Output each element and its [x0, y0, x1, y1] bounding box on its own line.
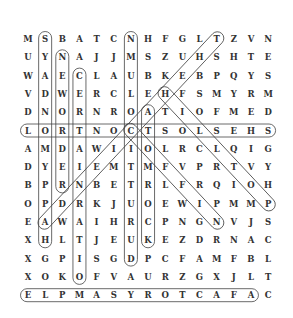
grid-letter[interactable]: P: [54, 250, 71, 268]
grid-letter[interactable]: D: [20, 103, 37, 121]
grid-letter[interactable]: C: [105, 30, 122, 48]
grid-letter[interactable]: Y: [242, 67, 259, 85]
grid-letter[interactable]: P: [191, 158, 208, 176]
grid-letter[interactable]: M: [122, 48, 139, 66]
grid-letter[interactable]: S: [260, 213, 277, 231]
grid-letter[interactable]: P: [37, 195, 54, 213]
grid-letter[interactable]: U: [20, 48, 37, 66]
grid-letter[interactable]: Z: [174, 231, 191, 249]
grid-letter[interactable]: E: [71, 85, 88, 103]
grid-letter[interactable]: A: [242, 286, 259, 304]
grid-letter[interactable]: E: [225, 122, 242, 140]
grid-letter[interactable]: P: [54, 286, 71, 304]
grid-letter[interactable]: I: [88, 213, 105, 231]
grid-letter[interactable]: T: [242, 48, 259, 66]
grid-letter[interactable]: E: [20, 213, 37, 231]
grid-letter[interactable]: P: [208, 67, 225, 85]
grid-letter[interactable]: A: [191, 250, 208, 268]
grid-letter[interactable]: L: [191, 122, 208, 140]
grid-letter[interactable]: K: [157, 67, 174, 85]
grid-letter[interactable]: Z: [157, 48, 174, 66]
grid-letter[interactable]: H: [105, 213, 122, 231]
grid-letter[interactable]: M: [140, 158, 157, 176]
grid-letter[interactable]: C: [140, 213, 157, 231]
grid-letter[interactable]: L: [191, 30, 208, 48]
grid-letter[interactable]: T: [71, 231, 88, 249]
grid-letter[interactable]: R: [140, 286, 157, 304]
grid-letter[interactable]: O: [140, 140, 157, 158]
grid-letter[interactable]: C: [260, 231, 277, 249]
grid-letter[interactable]: Z: [174, 268, 191, 286]
grid-letter[interactable]: J: [242, 213, 259, 231]
grid-letter[interactable]: E: [54, 67, 71, 85]
grid-letter[interactable]: M: [37, 140, 54, 158]
grid-letter[interactable]: Q: [225, 67, 242, 85]
grid-letter[interactable]: F: [225, 250, 242, 268]
grid-letter[interactable]: F: [208, 103, 225, 121]
grid-letter[interactable]: X: [20, 250, 37, 268]
grid-letter[interactable]: H: [191, 48, 208, 66]
grid-letter[interactable]: Y: [122, 286, 139, 304]
grid-letter[interactable]: S: [37, 30, 54, 48]
grid-letter[interactable]: J: [105, 48, 122, 66]
grid-letter[interactable]: C: [260, 286, 277, 304]
grid-letter[interactable]: V: [225, 213, 242, 231]
grid-letter[interactable]: X: [208, 268, 225, 286]
grid-letter[interactable]: V: [20, 85, 37, 103]
grid-letter[interactable]: T: [157, 103, 174, 121]
grid-letter[interactable]: N: [122, 30, 139, 48]
grid-letter[interactable]: O: [37, 268, 54, 286]
grid-letter[interactable]: R: [242, 85, 259, 103]
grid-letter[interactable]: R: [174, 140, 191, 158]
grid-letter[interactable]: M: [208, 250, 225, 268]
grid-letter[interactable]: I: [191, 195, 208, 213]
grid-letter[interactable]: O: [174, 122, 191, 140]
grid-letter[interactable]: M: [105, 158, 122, 176]
grid-letter[interactable]: T: [122, 176, 139, 194]
grid-letter[interactable]: I: [71, 250, 88, 268]
grid-letter[interactable]: S: [260, 67, 277, 85]
grid-letter[interactable]: K: [54, 268, 71, 286]
grid-letter[interactable]: S: [105, 286, 122, 304]
grid-letter[interactable]: L: [157, 140, 174, 158]
grid-letter[interactable]: C: [191, 140, 208, 158]
grid-letter[interactable]: T: [208, 30, 225, 48]
grid-letter[interactable]: H: [225, 48, 242, 66]
grid-letter[interactable]: B: [54, 30, 71, 48]
grid-letter[interactable]: S: [208, 122, 225, 140]
grid-letter[interactable]: C: [191, 286, 208, 304]
grid-letter[interactable]: S: [157, 122, 174, 140]
grid-letter[interactable]: E: [20, 286, 37, 304]
grid-letter[interactable]: N: [174, 213, 191, 231]
grid-letter[interactable]: N: [88, 122, 105, 140]
grid-letter[interactable]: F: [174, 176, 191, 194]
grid-letter[interactable]: O: [105, 122, 122, 140]
grid-letter[interactable]: K: [88, 195, 105, 213]
grid-letter[interactable]: L: [242, 268, 259, 286]
grid-letter[interactable]: I: [105, 140, 122, 158]
grid-letter[interactable]: I: [225, 176, 242, 194]
grid-letter[interactable]: U: [122, 195, 139, 213]
grid-letter[interactable]: W: [174, 195, 191, 213]
grid-letter[interactable]: D: [54, 195, 71, 213]
grid-letter[interactable]: D: [122, 250, 139, 268]
grid-letter[interactable]: A: [71, 30, 88, 48]
grid-letter[interactable]: R: [54, 176, 71, 194]
grid-letter[interactable]: M: [225, 103, 242, 121]
grid-letter[interactable]: G: [174, 30, 191, 48]
grid-letter[interactable]: B: [242, 250, 259, 268]
grid-letter[interactable]: Y: [37, 158, 54, 176]
grid-letter[interactable]: V: [242, 158, 259, 176]
grid-letter[interactable]: Q: [225, 140, 242, 158]
grid-letter[interactable]: G: [105, 250, 122, 268]
grid-letter[interactable]: G: [37, 250, 54, 268]
grid-letter[interactable]: A: [37, 67, 54, 85]
grid-letter[interactable]: T: [260, 268, 277, 286]
grid-letter[interactable]: W: [20, 67, 37, 85]
grid-letter[interactable]: O: [157, 286, 174, 304]
grid-letter[interactable]: N: [71, 176, 88, 194]
grid-letter[interactable]: E: [54, 158, 71, 176]
grid-letter[interactable]: H: [242, 122, 259, 140]
grid-letter[interactable]: P: [260, 195, 277, 213]
grid-letter[interactable]: L: [88, 67, 105, 85]
